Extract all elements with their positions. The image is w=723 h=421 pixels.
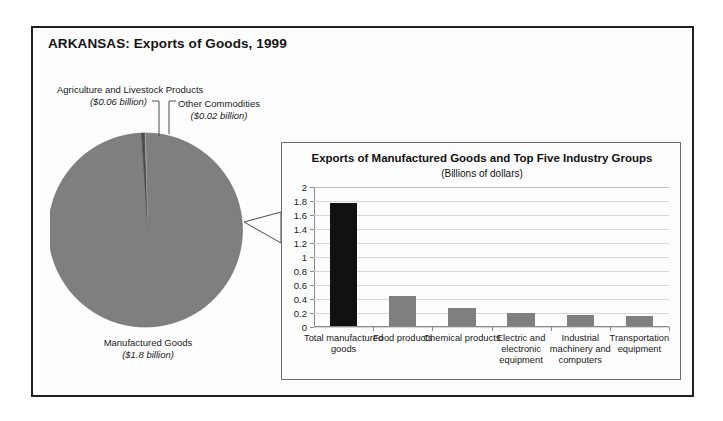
x-axis-tick <box>373 327 374 331</box>
gridline <box>314 215 669 216</box>
gridline <box>314 243 669 244</box>
gridline <box>314 313 669 314</box>
y-axis-tick <box>310 285 314 286</box>
y-axis-tick <box>310 313 314 314</box>
pie-label-agriculture-name: Agriculture and Livestock Products <box>57 84 203 95</box>
pie-chart-svg <box>50 132 246 328</box>
bar-chart-title: Exports of Manufactured Goods and Top Fi… <box>282 152 682 164</box>
pie-label-manufactured: Manufactured Goods ($1.8 billion) <box>86 337 210 360</box>
y-axis-tick-label: 0.6 <box>294 280 307 291</box>
gridline <box>314 299 669 300</box>
figure-canvas: ARKANSAS: Exports of Goods, 1999 Agricul… <box>0 0 723 421</box>
x-axis-tick <box>610 327 611 331</box>
y-axis-tick-label: 1.6 <box>294 210 307 221</box>
gridline <box>314 257 669 258</box>
y-axis-tick-label: 0.8 <box>294 266 307 277</box>
y-axis-tick <box>310 201 314 202</box>
pie-label-other: Other Commodities ($0.02 billion) <box>160 98 278 121</box>
page-title: ARKANSAS: Exports of Goods, 1999 <box>48 36 287 51</box>
bar-6 <box>626 316 653 326</box>
gridline <box>314 285 669 286</box>
y-axis-tick-label: 1 <box>302 252 307 263</box>
gridline <box>314 271 669 272</box>
gridline <box>314 229 669 230</box>
y-axis-tick-label: 2 <box>302 182 307 193</box>
y-axis-tick <box>310 299 314 300</box>
bar-5 <box>567 315 594 326</box>
y-axis-tick <box>310 229 314 230</box>
bar-2 <box>389 296 416 326</box>
x-axis-tick <box>432 327 433 331</box>
y-axis-tick <box>310 257 314 258</box>
x-axis-tick <box>669 327 670 331</box>
bar-chart-subtitle: (Billions of dollars) <box>282 168 682 179</box>
bar-1 <box>330 203 357 326</box>
x-axis-tick <box>492 327 493 331</box>
gridline <box>314 201 669 202</box>
y-axis-tick-label: 0.4 <box>294 294 307 305</box>
bar-3 <box>448 308 475 326</box>
pie-label-other-name: Other Commodities <box>178 98 260 109</box>
bar-chart-plot-area: 00.20.40.60.811.21.41.61.82Total manufac… <box>314 187 669 327</box>
y-axis-tick <box>310 271 314 272</box>
pie-label-agriculture: Agriculture and Livestock Products ($0.0… <box>57 84 147 107</box>
y-axis-tick-label: 0 <box>302 322 307 333</box>
y-axis-tick <box>310 243 314 244</box>
y-axis-tick-label: 0.2 <box>294 308 307 319</box>
y-axis-tick <box>310 187 314 188</box>
pie-label-other-value: ($0.02 billion) <box>190 110 247 121</box>
gridline <box>314 187 669 188</box>
pie-chart <box>50 132 246 328</box>
bar-chart-panel: Exports of Manufactured Goods and Top Fi… <box>281 142 681 380</box>
x-axis-tick <box>551 327 552 331</box>
y-axis-tick <box>310 215 314 216</box>
y-axis-tick-label: 1.2 <box>294 238 307 249</box>
pie-label-manufactured-name: Manufactured Goods <box>104 337 193 348</box>
x-axis-tick-label: Transportation equipment <box>598 333 680 355</box>
y-axis-tick-label: 1.4 <box>294 224 307 235</box>
y-axis-tick-label: 1.8 <box>294 196 307 207</box>
pie-label-agriculture-value: ($0.06 billion) <box>90 96 147 107</box>
pie-label-manufactured-value: ($1.8 billion) <box>122 349 174 360</box>
y-axis-tick <box>310 327 314 328</box>
bar-4 <box>507 313 534 326</box>
